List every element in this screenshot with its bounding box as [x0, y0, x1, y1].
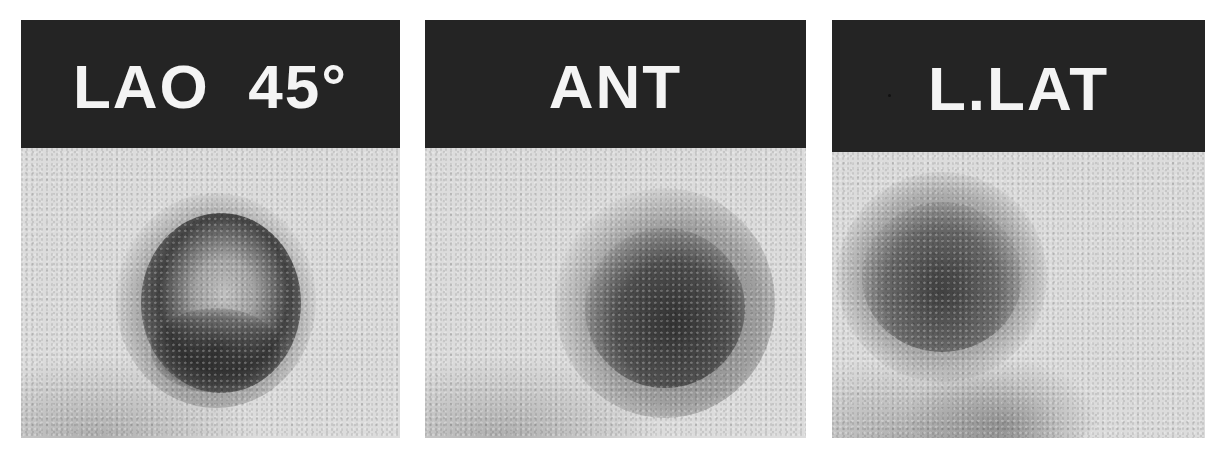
panel-label-band: L.LAT: [832, 20, 1205, 152]
uptake-halo: [116, 193, 316, 408]
scan-panel-llat: L.LAT: [832, 20, 1205, 438]
scintigram-image: [425, 148, 806, 438]
uptake-ring: [141, 213, 301, 393]
uptake-base: [151, 308, 281, 393]
panel-label: ANT: [549, 51, 682, 122]
uptake-core: [585, 228, 745, 388]
uptake-halo: [555, 188, 775, 418]
film-speck: [888, 94, 891, 97]
lower-activity: [902, 357, 1102, 438]
uptake-halo: [837, 172, 1047, 382]
uptake-core: [862, 202, 1022, 352]
panel-label-band: LAO 45°: [21, 20, 400, 148]
panel-label: LAO 45°: [73, 51, 348, 122]
scintigram-image: [832, 152, 1205, 438]
scan-panel-lao45: LAO 45°: [21, 20, 400, 438]
scan-panel-ant: ANT: [425, 20, 806, 438]
panel-label-band: ANT: [425, 20, 806, 148]
panel-label: L.LAT: [928, 53, 1109, 124]
scintigram-image: [21, 148, 400, 438]
